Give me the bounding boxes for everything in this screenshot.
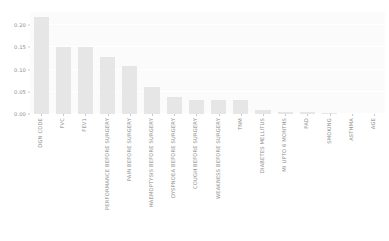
x-axis-tick-label: MI UPTO 6 MONTHS [283,118,288,172]
x-axis-tick-mark [130,114,131,116]
y-axis-tick-label: 0.00 [14,111,26,117]
bar-slot [141,12,163,114]
x-axis-tick-label: PERFORMANCE BEFORE SURGERY [105,118,110,210]
x-axis-label-slot: ASTHMA [341,116,363,238]
x-axis-label-slot: PAD [296,116,318,238]
bar [78,47,93,114]
bar [34,17,49,114]
bar [100,57,115,114]
x-axis-label-slot: HAEMOPTYSIS BEFORE SURGERY [141,116,163,238]
bar-slot [163,12,185,114]
bar-slot [230,12,252,114]
bar [122,66,137,114]
y-axis-tick-label: 0.20 [14,22,26,28]
x-axis-tick-mark [152,114,153,116]
x-axis-tick-mark [307,114,308,116]
x-axis-tick-label: FEV1 [83,118,88,132]
x-axis-tick-label: WEAKNESS BEFORE SURGERY [216,118,221,199]
x-axis-label-slot: PAIN BEFORE SURGERY [119,116,141,238]
x-axis-label-slot: DYSPNOEA BEFORE SURGERY [163,116,185,238]
x-axis-tick-mark [219,114,220,116]
bar-slot [30,12,52,114]
x-axis-tick-label: SMOKING [327,118,332,144]
bar-slot [363,12,385,114]
x-axis-tick-label: FVC [61,118,66,129]
x-axis-label-slot: TNM [230,116,252,238]
x-axis-tick-label: AGE [371,118,376,129]
bar-slot [252,12,274,114]
x-axis-tick-mark [85,114,86,116]
bar [167,97,182,114]
x-axis-tick-label: ASTHMA [349,118,354,141]
x-axis-tick-label: PAIN BEFORE SURGERY [127,118,132,181]
x-axis-label-slot: FEV1 [74,116,96,238]
x-axis-label-slot: AGE [363,116,385,238]
x-axis-tick-mark [63,114,64,116]
y-axis: 0.000.050.100.150.20 [0,12,30,114]
x-axis-tick-mark [108,114,109,116]
x-axis-tick-label: TNM [238,118,243,130]
x-axis-tick-mark [285,114,286,116]
bar-slot [119,12,141,114]
bar [189,100,204,114]
x-axis-label-slot: DGN CODE [30,116,52,238]
bar [56,47,71,114]
x-axis-tick-mark [174,114,175,116]
bar-slot [185,12,207,114]
bar-slot [52,12,74,114]
x-axis-label-slot: WEAKNESS BEFORE SURGERY [208,116,230,238]
bar-series [30,12,385,114]
bar [211,100,226,114]
bar-slot [97,12,119,114]
x-axis-tick-mark [352,114,353,116]
bar-slot [296,12,318,114]
bar-chart-figure: 0.000.050.100.150.20 DGN CODEFVCFEV1PERF… [0,0,389,241]
x-axis-label-slot: PERFORMANCE BEFORE SURGERY [97,116,119,238]
bar [144,87,159,114]
x-axis-tick-label: HAEMOPTYSIS BEFORE SURGERY [149,118,154,207]
y-axis-tick-label: 0.15 [14,44,26,50]
x-axis-label-slot: COUGH BEFORE SURGERY [185,116,207,238]
x-axis-tick-mark [330,114,331,116]
bar [233,100,248,114]
x-axis-tick-mark [374,114,375,116]
bar-slot [341,12,363,114]
bar-slot [274,12,296,114]
x-axis-label-slot: DIABETES MELLITUS [252,116,274,238]
y-axis-tick-label: 0.10 [14,67,26,73]
x-axis-tick-label: DYSPNOEA BEFORE SURGERY [172,118,177,198]
x-axis-label-slot: FVC [52,116,74,238]
x-axis-tick-mark [241,114,242,116]
x-axis-label-slot: SMOKING [318,116,340,238]
bar-slot [208,12,230,114]
x-axis-label-slot: MI UPTO 6 MONTHS [274,116,296,238]
bar-slot [318,12,340,114]
x-axis-tick-mark [196,114,197,116]
x-axis-tick-label: DGN CODE [38,118,43,148]
x-axis-tick-label: COUGH BEFORE SURGERY [194,118,199,189]
y-axis-tick-label: 0.05 [14,89,26,95]
x-axis-tick-label: PAD [305,118,310,129]
x-axis-tick-mark [41,114,42,116]
x-axis-tick-label: DIABETES MELLITUS [260,118,265,173]
x-axis-labels: DGN CODEFVCFEV1PERFORMANCE BEFORE SURGER… [30,116,385,238]
bar-slot [74,12,96,114]
x-axis-tick-mark [263,114,264,116]
